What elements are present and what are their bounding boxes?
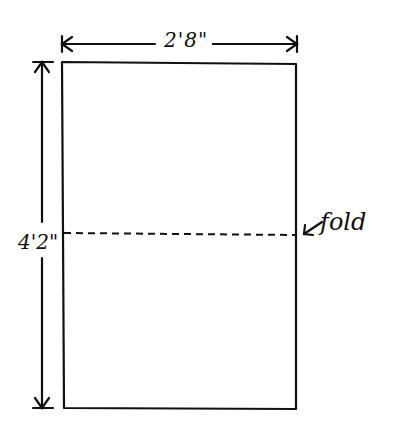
height-dimension-label: 4'2": [18, 228, 58, 256]
fold-label: fold: [320, 208, 366, 236]
fold-line: [64, 233, 296, 235]
width-dimension-label: 2'8": [160, 28, 212, 52]
